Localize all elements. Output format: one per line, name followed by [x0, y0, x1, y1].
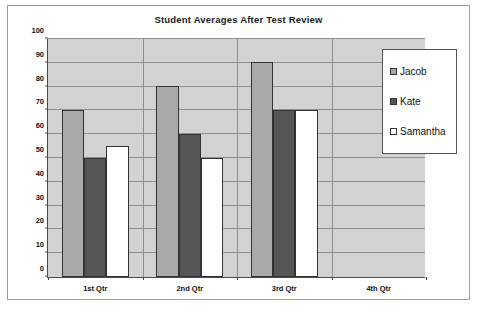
y-axis-label-70: 70: [36, 97, 44, 106]
legend-label-samantha: Samantha: [400, 126, 446, 137]
chart-title: Student Averages After Test Review: [8, 14, 469, 25]
y-axis-label-20: 20: [36, 216, 44, 225]
legend-swatch-icon-kate: [390, 98, 397, 105]
bar-jacob-1[interactable]: [62, 110, 84, 277]
y-axis-tick-20: [45, 228, 48, 229]
category-separator-3: [332, 39, 333, 277]
x-axis-tick-4: [426, 277, 427, 280]
category-separator-2: [237, 39, 238, 277]
x-axis-tick-3: [332, 277, 333, 280]
y-axis-label-40: 40: [36, 168, 44, 177]
bar-group-2: [156, 39, 223, 277]
y-axis-label-50: 50: [36, 145, 44, 154]
y-axis-label-30: 30: [36, 192, 44, 201]
bar-kate-2[interactable]: [179, 134, 201, 277]
y-axis-label-60: 60: [36, 121, 44, 130]
y-axis-label-0: 0: [40, 264, 44, 273]
y-axis-tick-70: [45, 109, 48, 110]
y-axis-tick-50: [45, 157, 48, 158]
chart-frame: Student Averages After Test Review 01020…: [7, 5, 470, 300]
x-axis-label-4: 4th Qtr: [366, 284, 391, 293]
x-axis-label-3: 3rd Qtr: [272, 284, 297, 293]
bar-samantha-2[interactable]: [201, 158, 223, 278]
x-axis-label-2: 2nd Qtr: [176, 284, 203, 293]
y-axis-label-80: 80: [36, 73, 44, 82]
y-axis-tick-30: [45, 204, 48, 205]
x-axis-tick-0: [48, 277, 49, 280]
y-axis-label-90: 90: [36, 49, 44, 58]
bar-kate-3[interactable]: [273, 110, 295, 277]
legend-swatch-icon-jacob: [390, 68, 397, 75]
legend-item-kate[interactable]: Kate: [390, 96, 456, 107]
y-axis-tick-90: [45, 61, 48, 62]
bar-group-1: [62, 39, 129, 277]
bar-samantha-1[interactable]: [106, 146, 128, 277]
x-axis-tick-2: [237, 277, 238, 280]
legend-item-jacob[interactable]: Jacob: [390, 66, 456, 77]
x-axis-tick-1: [143, 277, 144, 280]
legend-item-samantha[interactable]: Samantha: [390, 126, 456, 137]
y-axis-tick-60: [45, 133, 48, 134]
bar-kate-1[interactable]: [84, 158, 106, 278]
bar-jacob-3[interactable]: [251, 62, 273, 277]
y-axis-tick-10: [45, 252, 48, 253]
category-separator-1: [143, 39, 144, 277]
bar-jacob-2[interactable]: [156, 86, 178, 277]
legend-swatch-icon-samantha: [390, 128, 397, 135]
y-axis-tick-100: [45, 38, 48, 39]
y-axis-label-10: 10: [36, 240, 44, 249]
y-axis-label-100: 100: [31, 26, 44, 35]
x-axis-label-1: 1st Qtr: [83, 284, 107, 293]
bar-samantha-3[interactable]: [295, 110, 317, 277]
bar-group-3: [251, 39, 318, 277]
y-axis-tick-80: [45, 85, 48, 86]
plot-area: 0102030405060708090100 1st Qtr2nd Qtr3rd…: [47, 39, 425, 278]
chart-legend: JacobKateSamantha: [382, 49, 457, 154]
legend-label-jacob: Jacob: [400, 66, 427, 77]
y-axis-tick-40: [45, 180, 48, 181]
legend-label-kate: Kate: [400, 96, 421, 107]
